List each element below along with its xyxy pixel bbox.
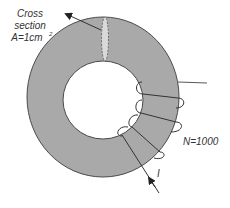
lead-wire-top	[178, 82, 207, 83]
cross-section-label-line1: Cross	[17, 8, 43, 19]
cross-section-label-superscript: 2	[48, 31, 53, 37]
cross-section-ellipse	[102, 17, 109, 61]
cross-section-label-line3: A=1cm	[10, 32, 42, 43]
turns-label: N=1000	[183, 136, 219, 147]
cross-section-label-line2: section	[14, 20, 46, 31]
current-label: I	[157, 168, 160, 179]
toroid-diagram: Cross section A=1cm 2 N=1000 I	[0, 0, 230, 208]
current-arrow	[149, 178, 155, 187]
